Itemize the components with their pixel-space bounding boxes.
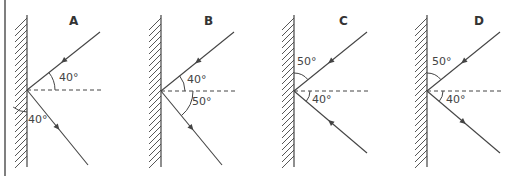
angle-arc [439, 91, 443, 101]
angle-arc [49, 73, 55, 90]
panel-label-a: A [69, 15, 78, 27]
angle-label-d-bottom: 40° [446, 94, 466, 105]
angle-label-c-top: 50° [297, 56, 317, 67]
panel-label-c: C [339, 15, 348, 27]
angle-arc [180, 76, 185, 91]
reflection-diagrams: A B C D 40° 40° 40° 50° 50° 40° 50° 40° [0, 0, 510, 176]
angle-label-b-top: 40° [187, 74, 207, 85]
panel-b [149, 15, 238, 168]
angle-arc [306, 91, 310, 101]
panel-label-b: B [204, 15, 213, 27]
angle-arc [427, 73, 441, 80]
mirror-hatching [415, 18, 427, 168]
angle-arc [294, 73, 308, 80]
panel-d [415, 15, 504, 168]
mirror-hatching [282, 18, 294, 168]
panel-c [282, 15, 371, 168]
angle-label-a-bottom: 40° [28, 114, 48, 125]
mirror-hatching [15, 18, 27, 168]
mirror-hatching [149, 18, 161, 168]
angle-label-c-bottom: 40° [312, 94, 332, 105]
angle-label-b-bottom: 50° [192, 96, 212, 107]
panel-a [13, 15, 104, 168]
angle-label-d-top: 50° [432, 56, 452, 67]
panel-label-d: D [474, 15, 484, 27]
angle-label-a-top: 40° [59, 72, 79, 83]
